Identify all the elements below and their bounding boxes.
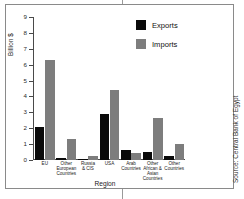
crop-mark-bottom	[122, 189, 123, 199]
bar-exports	[56, 158, 66, 160]
x-tick-label-line: & CIS	[74, 166, 102, 171]
y-tick-mark	[29, 81, 33, 82]
y-tick-mark	[29, 33, 33, 34]
y-tick-label: 9	[13, 14, 27, 20]
legend-item: Imports	[136, 39, 216, 49]
bar-exports	[78, 159, 88, 160]
y-tick-label: 6	[13, 62, 27, 68]
bar-exports	[35, 127, 45, 160]
y-tick-label: 3	[13, 109, 27, 115]
y-tick-mark	[29, 96, 33, 97]
chart-legend: ExportsImports	[136, 20, 216, 58]
legend-item: Exports	[136, 20, 216, 30]
y-tick-mark	[29, 65, 33, 66]
y-tick-mark	[29, 17, 33, 18]
y-tick-mark	[29, 144, 33, 145]
bar-imports	[153, 118, 163, 160]
chart-page: Billion $ 0123456789 EUOtherEuropeanCoun…	[0, 0, 244, 199]
x-tick-label: OtherCountries	[160, 161, 188, 171]
source-note: Source: Central Bank of Egypt	[232, 96, 239, 183]
bar-exports	[121, 150, 131, 160]
bar-imports	[175, 144, 185, 160]
y-tick-mark	[29, 128, 33, 129]
y-tick-label: 1	[13, 141, 27, 147]
legend-label: Exports	[152, 21, 178, 30]
bar-group	[78, 17, 98, 160]
y-tick-label: 0	[13, 157, 27, 163]
y-tick-label: 7	[13, 46, 27, 52]
bar-imports	[131, 153, 141, 160]
bar-group	[56, 17, 76, 160]
plot-area: Billion $ 0123456789 EUOtherEuropeanCoun…	[5, 4, 234, 189]
y-tick-mark	[29, 49, 33, 50]
x-tick-label-line: Countries	[53, 171, 81, 176]
bar-group	[35, 17, 55, 160]
bar-exports	[143, 152, 153, 160]
bar-exports	[100, 114, 110, 160]
bar-exports	[164, 156, 174, 160]
bar-imports	[67, 139, 77, 160]
bar-imports	[88, 156, 98, 160]
x-tick-label-line: Countries	[160, 166, 188, 171]
bar-group	[100, 17, 120, 160]
legend-label: Imports	[152, 40, 177, 49]
y-tick-label: 8	[13, 30, 27, 36]
x-axis-label: Region	[5, 180, 205, 187]
bar-imports	[45, 60, 55, 160]
legend-swatch-exports	[136, 20, 146, 30]
legend-swatch-imports	[136, 39, 146, 49]
y-tick-label: 4	[13, 93, 27, 99]
bar-imports	[110, 90, 120, 160]
y-tick-mark	[29, 112, 33, 113]
y-tick-label: 5	[13, 78, 27, 84]
y-tick-label: 2	[13, 125, 27, 131]
